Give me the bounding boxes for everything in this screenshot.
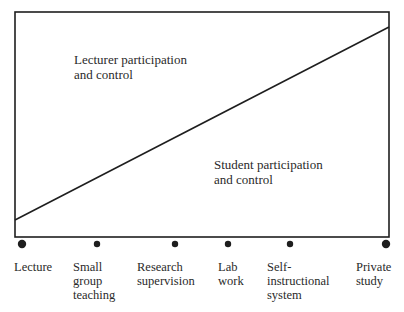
axis-dot — [287, 241, 293, 247]
lecturer-region-label: Lecturer participation and control — [74, 52, 187, 82]
axis-dot — [225, 241, 231, 247]
student-region-label: Student participation and control — [214, 157, 323, 187]
axis-dot — [172, 241, 178, 247]
axis-dot — [18, 240, 26, 248]
axis-point-label: Small group teaching — [73, 260, 115, 302]
axis-dots — [18, 240, 390, 248]
axis-point-label: Lecture — [14, 260, 52, 274]
axis-point-label: Research supervision — [137, 260, 195, 288]
axis-point-label: Lab work — [218, 260, 244, 288]
participation-divider-line — [15, 27, 389, 220]
axis-dot — [382, 240, 390, 248]
axis-dot — [94, 241, 100, 247]
axis-point-label: Private study — [356, 260, 391, 288]
diagram-frame — [15, 12, 389, 237]
axis-point-label: Self- instructional system — [267, 260, 330, 302]
participation-diagram — [0, 0, 404, 312]
